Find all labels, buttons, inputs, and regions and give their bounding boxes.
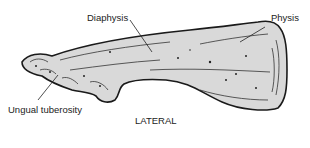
bone-outline <box>22 21 287 110</box>
bone-diagram: Diaphysis Physis Ungual tuberosity LATER… <box>0 0 310 148</box>
ungual-tuberosity-label: Ungual tuberosity <box>8 105 82 115</box>
physis-label: Physis <box>271 13 299 23</box>
view-label: LATERAL <box>135 116 177 126</box>
diaphysis-label: Diaphysis <box>87 13 128 23</box>
